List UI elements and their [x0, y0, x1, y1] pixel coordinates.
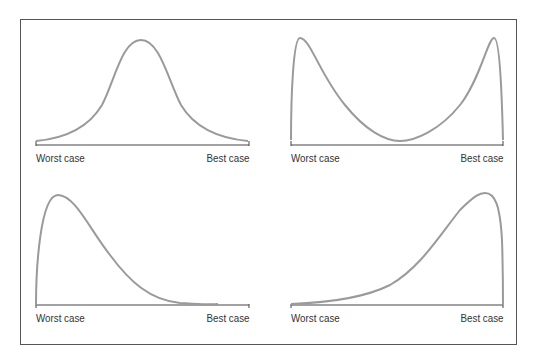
worst-case-label: Worst case: [291, 312, 340, 324]
worst-case-label: Worst case: [36, 312, 85, 324]
axes: [36, 141, 503, 308]
best-case-label: Best case: [460, 312, 503, 324]
best-case-label: Best case: [206, 152, 249, 164]
worst-case-label: Worst case: [36, 152, 85, 164]
distribution-curves: [0, 0, 536, 363]
best-case-label: Best case: [460, 152, 503, 164]
curves: [36, 38, 503, 305]
worst-case-label: Worst case: [291, 152, 340, 164]
best-case-label: Best case: [206, 312, 249, 324]
